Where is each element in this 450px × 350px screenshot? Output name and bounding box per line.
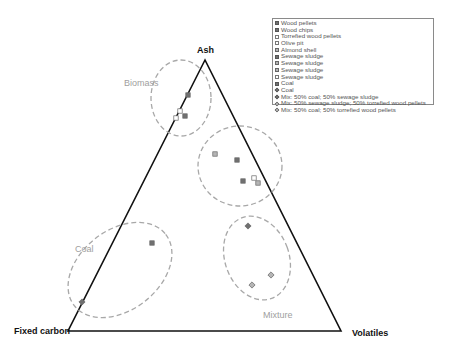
- square-marker-icon: [275, 21, 279, 25]
- legend-label: Mix: 50% coal; 50% torrefied wood pellet…: [281, 107, 396, 114]
- square-marker-icon: [275, 35, 279, 39]
- diamond-marker-icon: [274, 108, 279, 113]
- legend-item: Coal: [275, 80, 431, 87]
- data-point: [268, 272, 274, 278]
- cluster-ellipse: [212, 207, 302, 310]
- cluster-ellipse: [50, 203, 191, 337]
- data-point: [235, 158, 239, 162]
- data-point: [241, 179, 245, 183]
- square-marker-icon: [275, 48, 279, 52]
- data-point: [178, 109, 182, 113]
- axis-label-volatiles: Volatiles: [352, 328, 388, 338]
- data-point: [186, 93, 190, 97]
- cluster-label-coal: Coal: [75, 244, 94, 254]
- diamond-marker-icon: [274, 88, 279, 93]
- cluster-ellipse: [151, 60, 211, 136]
- square-marker-icon: [275, 75, 279, 79]
- data-point: [252, 176, 256, 180]
- data-point: [213, 152, 217, 156]
- data-point: [183, 114, 187, 118]
- data-point: [245, 223, 251, 229]
- legend-item: Mix: 50% coal; 50% torrefied wood pellet…: [275, 107, 431, 114]
- cluster-ellipse: [198, 126, 282, 206]
- data-point: [256, 181, 260, 185]
- cluster-label-biomass: Biomass: [124, 78, 159, 88]
- square-marker-icon: [275, 82, 279, 86]
- square-marker-icon: [275, 68, 279, 72]
- diamond-marker-icon: [274, 101, 279, 106]
- axis-label-fixed-carbon: Fixed carbon: [14, 326, 70, 336]
- data-point: [150, 241, 154, 245]
- diamond-marker-icon: [274, 94, 279, 99]
- cluster-label-mixture: Mixture: [263, 310, 293, 320]
- data-point: [174, 116, 178, 120]
- square-marker-icon: [275, 61, 279, 65]
- legend: Wood pelletsWood chipsTorrefied wood pel…: [272, 18, 434, 105]
- axis-label-ash: Ash: [197, 45, 214, 55]
- square-marker-icon: [275, 28, 279, 32]
- square-marker-icon: [275, 41, 279, 45]
- data-point: [249, 282, 255, 288]
- legend-item: Sewage sludge: [275, 74, 431, 81]
- square-marker-icon: [275, 55, 279, 59]
